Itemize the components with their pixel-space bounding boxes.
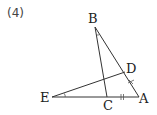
problem-number: (4): [7, 6, 24, 20]
label-D: D: [126, 61, 136, 76]
segment-BC: [95, 27, 107, 97]
label-A: A: [138, 91, 149, 106]
label-C: C: [103, 98, 113, 113]
angle-E-arc-icon: [64, 93, 65, 97]
geometry-figure: (4) B D E C A: [0, 0, 157, 115]
triangle-diagram: (4) B D E C A: [0, 0, 157, 115]
label-B: B: [88, 11, 98, 26]
segment-ED: [52, 72, 125, 97]
label-E: E: [40, 90, 50, 105]
